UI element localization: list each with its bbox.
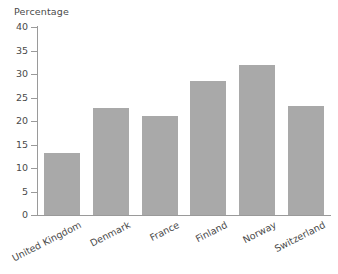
y-axis-tick — [31, 215, 37, 216]
y-axis-tick-label: 5 — [2, 187, 28, 197]
y-axis-tick-label: 0 — [2, 210, 28, 220]
bar — [239, 65, 275, 215]
x-axis-label: Finland — [135, 219, 229, 274]
bar-series — [38, 27, 330, 215]
y-axis-tick — [31, 27, 37, 28]
x-axis-label: Norway — [184, 219, 278, 274]
y-axis-tick-label: 20 — [2, 116, 28, 126]
bar-chart: Percentage 4035302520151050 United Kingd… — [0, 0, 338, 274]
x-axis-label: France — [87, 219, 181, 274]
y-axis-tick-label: 30 — [2, 69, 28, 79]
bar — [44, 153, 80, 216]
y-axis-tick-label: 40 — [2, 22, 28, 32]
y-axis-tick — [31, 51, 37, 52]
y-axis-title: Percentage — [14, 6, 69, 17]
y-axis-tick — [31, 121, 37, 122]
bar — [93, 108, 129, 215]
y-axis-tick — [31, 192, 37, 193]
bar — [190, 81, 226, 215]
x-axis-label: Denmark — [38, 219, 132, 274]
y-axis-tick-label: 15 — [2, 140, 28, 150]
bar — [288, 106, 324, 216]
y-axis-tick-label: 10 — [2, 163, 28, 173]
y-axis-tick-label: 25 — [2, 93, 28, 103]
y-axis-tick-label: 35 — [2, 46, 28, 56]
x-axis-line — [37, 215, 331, 216]
y-axis-tick — [31, 168, 37, 169]
y-axis-tick — [31, 145, 37, 146]
bar — [142, 116, 178, 215]
y-axis-tick — [31, 74, 37, 75]
y-axis-tick — [31, 98, 37, 99]
x-axis-label: Switzerland — [233, 219, 327, 274]
